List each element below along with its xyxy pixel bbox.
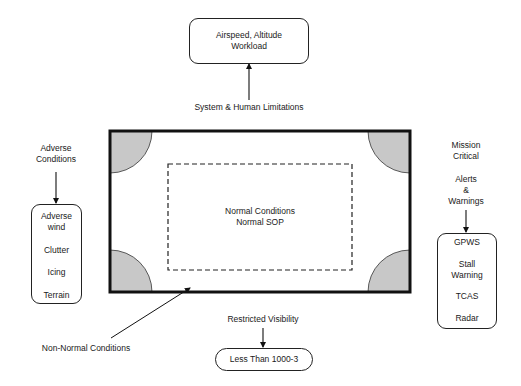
adverse-conditions-label: Adverse Conditions [26,143,86,165]
alerts-warnings-box: GPWS Stall Warning TCAS Radar [437,233,497,329]
adverse-conditions-line2: Conditions [26,154,86,165]
alerts-line3: Warnings [431,196,501,207]
visibility-minimum-box: Less Than 1000-3 [215,348,313,371]
mission-critical-label: Mission Critical Alerts & Warnings [431,140,501,207]
mission-critical-line2: Critical [431,151,501,162]
normal-conditions-label: Normal Conditions Normal SOP [200,206,320,228]
non-normal-conditions-label: Non-Normal Conditions [30,343,142,354]
visibility-minimum-text: Less Than 1000-3 [230,354,298,365]
adverse-wind-item: Adverse wind [41,211,72,233]
icing-item: Icing [48,267,66,278]
clutter-item: Clutter [44,245,69,256]
normal-conditions-line1: Normal Conditions [200,206,320,217]
gpws-item: GPWS [454,237,480,248]
tcas-item: TCAS [456,291,479,302]
limitations-label: System & Human Limitations [178,102,320,113]
alerts-line2: & [431,185,501,196]
stall-warning-line2: Warning [451,270,482,280]
normal-conditions-line2: Normal SOP [200,217,320,228]
limitations-box-line2: Workload [231,41,267,52]
restricted-visibility-label: Restricted Visibility [213,314,313,325]
stall-warning-line1: Stall [459,259,476,269]
radar-item: Radar [455,313,478,324]
limitations-box-line1: Airspeed, Altitude [216,30,282,41]
arrow-non-normal [111,288,190,338]
stall-warning-item: Stall Warning [451,259,482,281]
adverse-conditions-box: Adverse wind Clutter Icing Terrain [31,204,82,304]
terrain-item: Terrain [44,290,70,301]
adverse-conditions-line1: Adverse [26,143,86,154]
adverse-wind-line1: Adverse [41,211,72,221]
alerts-line1: Alerts [431,174,501,185]
limitations-box: Airspeed, Altitude Workload [189,18,309,64]
adverse-wind-line2: wind [48,222,65,232]
mission-critical-line1: Mission [431,140,501,151]
